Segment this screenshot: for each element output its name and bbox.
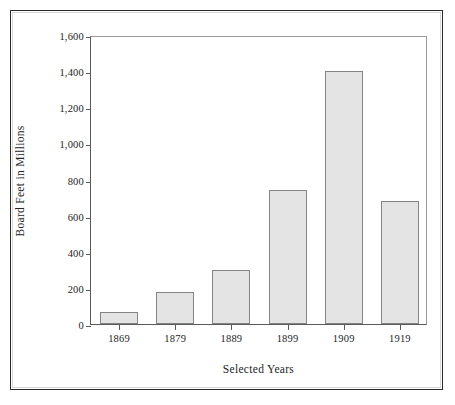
- y-tick-label: 1,200: [59, 104, 91, 115]
- y-tick-label: 1,600: [59, 32, 91, 43]
- x-tick-mark: [288, 324, 289, 330]
- y-tick-label: 400: [68, 249, 91, 260]
- y-axis-title: Board Feet in Millions: [11, 36, 29, 325]
- bar-1879: [156, 292, 194, 324]
- x-tick-mark: [400, 324, 401, 330]
- bar-1909: [325, 71, 363, 324]
- chart-figure-frame: Board Feet in Millions 02004006008001,00…: [10, 10, 443, 390]
- x-tick-label: 1909: [333, 334, 355, 345]
- x-tick-label: 1869: [108, 334, 130, 345]
- x-tick-label: 1919: [389, 334, 411, 345]
- x-tick-mark: [175, 324, 176, 330]
- y-tick-label: 800: [68, 176, 91, 187]
- y-tick-label: 1,400: [59, 68, 91, 79]
- y-axis-title-label: Board Feet in Millions: [14, 125, 26, 236]
- x-tick-label: 1899: [277, 334, 299, 345]
- y-tick-label: 0: [79, 321, 91, 332]
- y-tick-label: 1,000: [59, 140, 91, 151]
- y-tick-label: 600: [68, 212, 91, 223]
- plot-area: 02004006008001,0001,2001,4001,600 186918…: [90, 36, 427, 325]
- bar-1899: [269, 190, 307, 324]
- bar-1919: [381, 201, 419, 324]
- x-axis-title: Selected Years: [90, 363, 427, 375]
- bar-1889: [212, 270, 250, 324]
- bar-1869: [100, 312, 138, 324]
- x-tick-mark: [231, 324, 232, 330]
- y-tick-label: 200: [68, 285, 91, 296]
- x-tick-label: 1879: [164, 334, 186, 345]
- x-tick-label: 1889: [221, 334, 243, 345]
- x-tick-mark: [119, 324, 120, 330]
- x-tick-mark: [344, 324, 345, 330]
